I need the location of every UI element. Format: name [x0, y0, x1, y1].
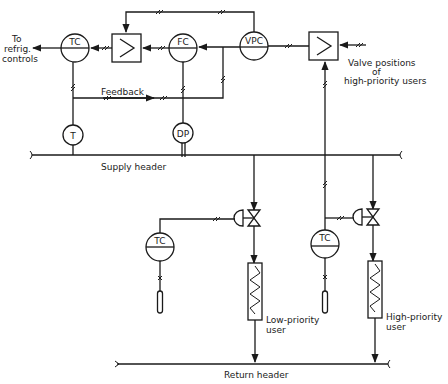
- fc-tag: FC: [177, 37, 188, 47]
- low-priority-user-coil[interactable]: [248, 263, 262, 320]
- valve-positions-label-1: Valve positions: [348, 58, 416, 68]
- to-refrig-label-2: refrig.: [4, 44, 31, 54]
- dp-tag: DP: [177, 129, 190, 139]
- low-priority-label-1: Low-priority: [266, 315, 320, 325]
- high-selector-1[interactable]: [112, 34, 141, 62]
- return-header-pipe: [115, 360, 390, 368]
- tc-low-priority-controller[interactable]: TC: [146, 233, 174, 261]
- dp-pressure-transmitter[interactable]: DP: [173, 123, 193, 143]
- tc-high-tag: TC: [318, 233, 330, 243]
- high-tc-to-selector2-signal: [323, 62, 327, 230]
- low-priority-label-2: user: [266, 325, 286, 335]
- t-tag: T: [69, 131, 76, 141]
- low-priority-control-valve[interactable]: [234, 210, 260, 226]
- high-selector-2[interactable]: [309, 32, 338, 60]
- high-priority-control-valve[interactable]: [353, 209, 379, 225]
- feedback-label: Feedback: [101, 87, 145, 97]
- tc-main-tag: TC: [68, 37, 80, 47]
- high-priority-label-2: user: [386, 322, 406, 332]
- high-tc-to-valve-signal: [325, 216, 354, 220]
- tc-high-priority-controller[interactable]: TC: [311, 230, 339, 258]
- low-temperature-bulb: [158, 261, 163, 313]
- fc-flow-controller[interactable]: FC: [169, 34, 197, 62]
- tc-low-tag: TC: [153, 236, 165, 246]
- t-temperature-transmitter[interactable]: T: [63, 125, 83, 145]
- return-header-label: Return header: [224, 370, 289, 380]
- high-priority-label-1: High-priority: [386, 312, 443, 322]
- valve-positions-input-signal: [340, 43, 366, 47]
- tc-main-controller[interactable]: TC: [61, 34, 89, 62]
- high-temperature-bulb: [323, 258, 328, 313]
- to-refrig-label-3: controls: [2, 54, 38, 64]
- t-to-tc-signal: [71, 62, 75, 125]
- valve-positions-label-3: high-priority users: [344, 76, 427, 86]
- fc-to-selector1-signal: [143, 46, 169, 50]
- vpc-valve-position-controller[interactable]: VPC: [240, 32, 268, 60]
- control-diagram: TC FC VPC T DP Supply header: [0, 0, 448, 384]
- selector1-to-tc-signal: [91, 46, 112, 50]
- selector2-to-vpc-signal: [268, 44, 309, 48]
- supply-header-label: Supply header: [101, 162, 167, 172]
- supply-header-pipe: [30, 151, 402, 159]
- high-priority-user-coil[interactable]: [368, 261, 382, 318]
- dp-to-fc-signal: [181, 62, 185, 123]
- vpc-tag: VPC: [245, 36, 263, 46]
- vpc-to-selector1-signal: [126, 10, 254, 32]
- feedback-signal: [73, 47, 225, 100]
- to-refrig-label-1: To: [11, 34, 22, 44]
- low-tc-to-valve-signal: [160, 217, 235, 233]
